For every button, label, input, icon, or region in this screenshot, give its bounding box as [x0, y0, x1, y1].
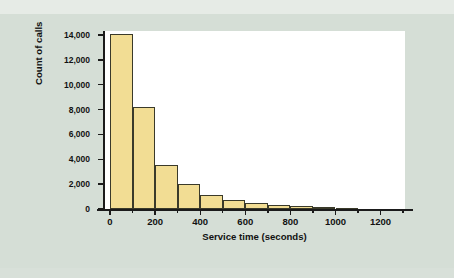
y-axis-tick-label: 6,000 — [0, 129, 96, 139]
page-bottom-band — [0, 268, 454, 278]
page-top-band — [0, 0, 454, 14]
x-axis-tick — [200, 210, 201, 215]
y-axis-tick — [98, 208, 103, 209]
x-axis-minor-tick — [177, 210, 178, 213]
x-axis-tick — [290, 210, 291, 215]
x-axis-minor-tick — [402, 210, 403, 213]
x-axis-tick-label: 0 — [107, 216, 112, 227]
x-axis-tick-label: 600 — [237, 216, 253, 227]
y-axis-tick — [98, 134, 103, 135]
histogram-bar — [178, 184, 201, 209]
y-axis-title: Count of calls — [33, 22, 44, 85]
histogram-figure: 02,0004,0006,0008,00010,00012,00014,000 … — [0, 0, 454, 278]
y-axis-tick — [98, 159, 103, 160]
x-axis-tick-label: 1200 — [370, 216, 391, 227]
y-axis-tick — [98, 59, 103, 60]
y-axis-tick-label: 0 — [0, 204, 96, 214]
y-axis-tick — [98, 84, 103, 85]
x-axis-title: Service time (seconds) — [104, 231, 405, 242]
y-axis-tick — [98, 183, 103, 184]
x-axis-minor-tick — [222, 210, 223, 213]
histogram-bar — [200, 195, 223, 209]
y-axis-line — [103, 31, 105, 210]
x-axis-minor-tick — [357, 210, 358, 213]
x-axis-minor-tick — [132, 210, 133, 213]
x-axis-tick-label: 200 — [147, 216, 163, 227]
y-axis-tick-label: 4,000 — [0, 154, 96, 164]
x-axis-minor-tick — [267, 210, 268, 213]
histogram-bar — [223, 200, 246, 209]
y-axis-tick-label: 14,000 — [0, 30, 96, 40]
x-axis-tick — [109, 210, 110, 215]
histogram-bar — [133, 107, 156, 209]
x-axis-line — [97, 209, 413, 211]
histogram-bar — [110, 34, 133, 209]
x-axis-tick — [380, 210, 381, 215]
x-axis-tick — [154, 210, 155, 215]
x-axis-tick — [335, 210, 336, 215]
x-axis-minor-tick — [312, 210, 313, 213]
x-axis-tick-label: 400 — [192, 216, 208, 227]
y-axis-tick-label: 2,000 — [0, 179, 96, 189]
y-axis-tick-label: 10,000 — [0, 80, 96, 90]
histogram-bar — [155, 165, 178, 209]
y-axis-tick — [98, 34, 103, 35]
x-axis-tick-label: 1000 — [325, 216, 346, 227]
y-axis-tick — [98, 109, 103, 110]
x-axis-tick — [245, 210, 246, 215]
y-axis-tick-label: 8,000 — [0, 105, 96, 115]
y-axis-tick-label: 12,000 — [0, 55, 96, 65]
x-axis-tick-label: 800 — [282, 216, 298, 227]
